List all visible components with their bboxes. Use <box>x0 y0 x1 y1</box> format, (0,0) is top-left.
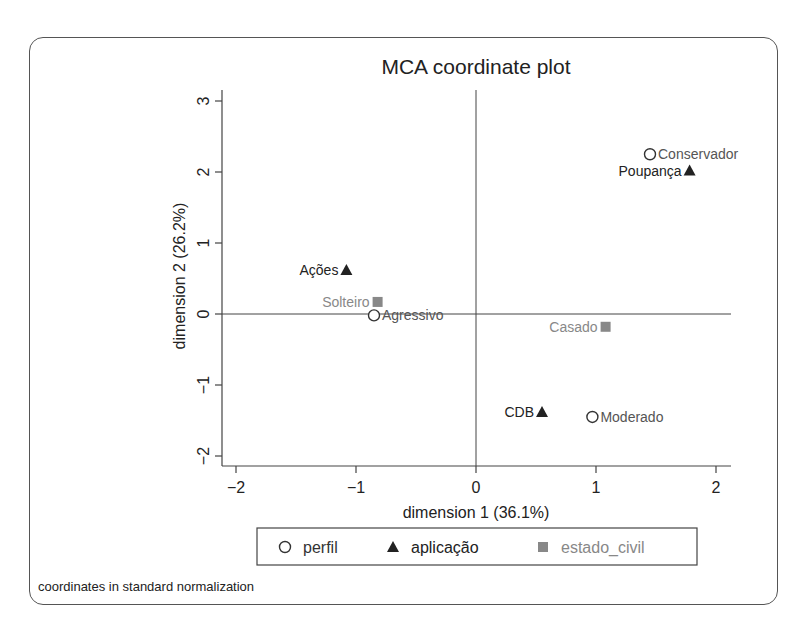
legend-label: perfil <box>303 539 338 556</box>
x-tick-label: 0 <box>472 479 481 496</box>
point-label: Ações <box>299 262 338 278</box>
legend-item-aplicação: aplicação <box>387 539 479 556</box>
point-label: Casado <box>549 319 597 335</box>
x-axis-label: dimension 1 (36.1%) <box>403 504 550 521</box>
point-label: CDB <box>504 404 534 420</box>
circle-marker-icon <box>645 149 656 160</box>
legend-item-estado_civil: estado_civil <box>538 539 645 557</box>
chart-title: MCA coordinate plot <box>381 55 570 78</box>
data-point-agressivo: Agressivo <box>369 307 444 323</box>
x-tick-label: 1 <box>592 479 601 496</box>
circle-marker-icon <box>280 542 291 553</box>
data-point-solteiro: Solteiro <box>322 294 382 310</box>
legend-label: aplicação <box>411 539 479 556</box>
data-point-poupança: Poupança <box>619 163 696 179</box>
y-tick-label: 1 <box>195 238 212 247</box>
y-axis-label: dimension 2 (26.2%) <box>171 203 188 350</box>
data-point-casado: Casado <box>549 319 610 335</box>
data-point-moderado: Moderado <box>587 409 664 425</box>
square-marker-icon <box>538 542 548 552</box>
x-tick-label: 2 <box>712 479 721 496</box>
triangle-marker-icon <box>536 406 548 417</box>
data-point-cdb: CDB <box>504 404 548 420</box>
data-points: ConservadorAgressivoModeradoPoupançaAçõe… <box>299 146 738 425</box>
point-label: Agressivo <box>382 307 444 323</box>
normalization-note: coordinates in standard normalization <box>38 579 254 594</box>
x-tick-label: −1 <box>347 479 365 496</box>
y-tick-label: 2 <box>195 167 212 176</box>
x-tick-label: −2 <box>227 479 245 496</box>
circle-marker-icon <box>587 411 598 422</box>
legend: perfilaplicaçãoestado_civil <box>257 528 697 565</box>
legend-item-perfil: perfil <box>280 539 338 556</box>
triangle-marker-icon <box>387 541 399 552</box>
y-tick-label: 0 <box>195 309 212 318</box>
y-tick-label: −2 <box>195 447 212 465</box>
point-label: Poupança <box>619 163 682 179</box>
data-point-conservador: Conservador <box>645 146 739 162</box>
triangle-marker-icon <box>340 264 352 275</box>
point-label: Solteiro <box>322 294 370 310</box>
y-tick-label: −1 <box>195 376 212 394</box>
data-point-ações: Ações <box>299 262 352 278</box>
legend-label: estado_civil <box>561 539 645 557</box>
y-tick-label: 3 <box>195 96 212 105</box>
triangle-marker-icon <box>684 165 696 176</box>
square-marker-icon <box>601 322 611 332</box>
circle-marker-icon <box>369 310 380 321</box>
square-marker-icon <box>373 297 383 307</box>
point-label: Conservador <box>658 146 738 162</box>
point-label: Moderado <box>600 409 663 425</box>
mca-coordinate-plot: MCA coordinate plot −2−1012−2−10123 Cons… <box>0 0 796 644</box>
